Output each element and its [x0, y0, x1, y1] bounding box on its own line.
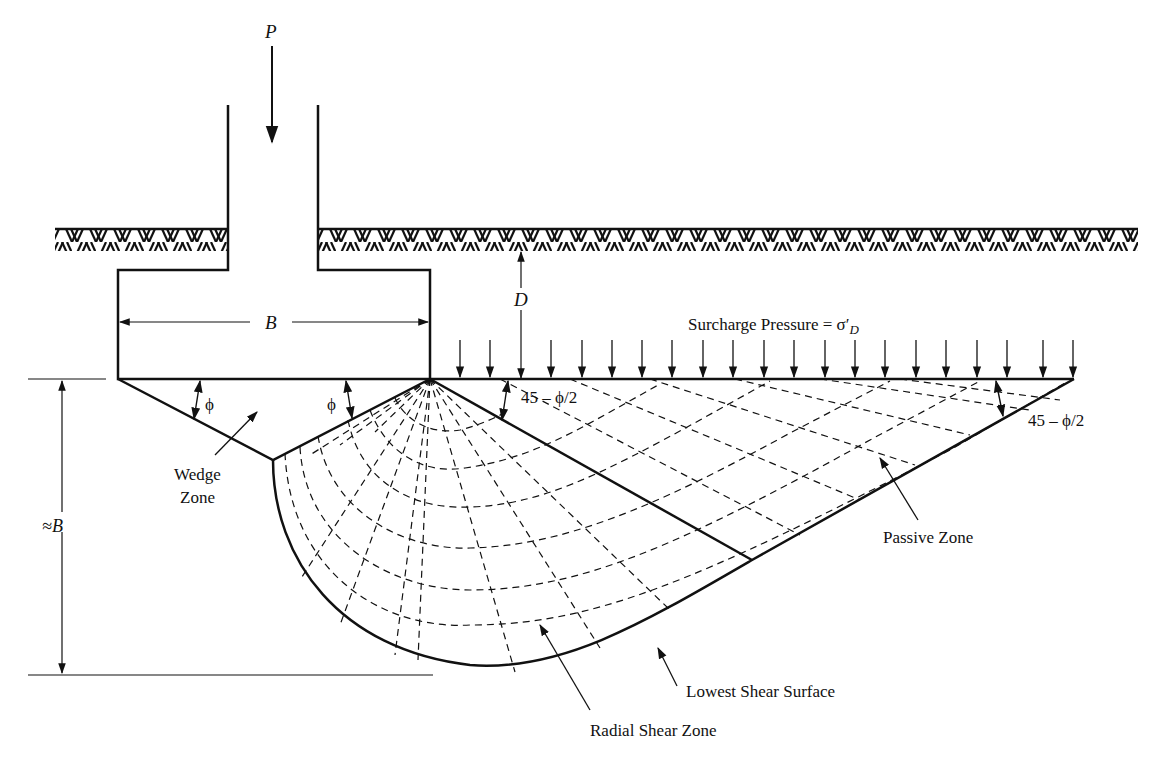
phi-left-label: ϕ — [205, 396, 214, 413]
phi-right-label: ϕ — [327, 396, 336, 413]
width-label: B — [265, 313, 277, 332]
passive-angle-inner-label: 45 – ϕ/2 — [521, 389, 577, 406]
passive-zone-label: Passive Zone — [883, 529, 973, 546]
radial-shear-zone-label: Radial Shear Zone — [590, 722, 717, 739]
ground-surface — [55, 229, 1138, 251]
passive-zone-lines — [500, 379, 1060, 535]
radial-passive-boundary — [430, 379, 752, 560]
passive-angle-outer-label: 45 – ϕ/2 — [1028, 412, 1084, 429]
depth-label: D — [514, 290, 528, 309]
surcharge-subscript: D — [849, 322, 858, 337]
depth-approx-label: ≈B — [42, 517, 63, 535]
wedge-zone-label-2: Zone — [180, 489, 215, 506]
bearing-capacity-diagram — [0, 0, 1166, 767]
wedge-zone-label-1: Wedge — [174, 466, 221, 483]
surcharge-arrows — [460, 340, 1073, 377]
load-label: P — [265, 22, 277, 41]
log-spiral-lines — [285, 381, 1065, 625]
wedge-zone-boundary — [118, 379, 430, 460]
lowest-shear-surface-label: Lowest Shear Surface — [686, 683, 835, 700]
radial-shear-lines — [300, 379, 670, 672]
surcharge-text: Surcharge Pressure = σ′ — [688, 315, 849, 334]
surcharge-label: Surcharge Pressure = σ′D — [688, 316, 859, 336]
